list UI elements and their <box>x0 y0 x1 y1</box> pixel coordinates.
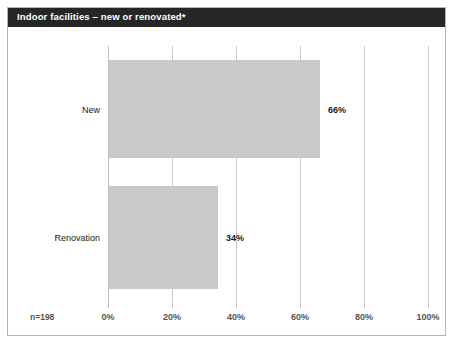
xtick-label-60: 60% <box>280 312 320 322</box>
xtick-label-100: 100% <box>408 312 448 322</box>
plot-area: New Renovation 66% 34% 0% 20% 40% 60% 80… <box>8 27 445 335</box>
page-title: Indoor facilities – new or renovated* <box>17 11 186 22</box>
category-label-new: New <box>8 105 100 115</box>
chart-title-bar: Indoor facilities – new or renovated* <box>8 8 445 27</box>
sample-size-label: n=198 <box>30 312 54 322</box>
chart-figure: Indoor facilities – new or renovated* Ne… <box>7 7 446 336</box>
value-label-new: 66% <box>328 105 346 115</box>
xtick-label-0: 0% <box>88 312 128 322</box>
xtick-label-40: 40% <box>216 312 256 322</box>
bar-renovation <box>109 186 218 289</box>
category-label-renovation: Renovation <box>8 233 100 243</box>
xtick-label-20: 20% <box>152 312 192 322</box>
xtick-label-80: 80% <box>344 312 384 322</box>
gridline-100 <box>428 46 429 308</box>
bar-new <box>109 60 320 158</box>
value-label-renovation: 34% <box>226 233 244 243</box>
gridline-80 <box>364 46 365 308</box>
